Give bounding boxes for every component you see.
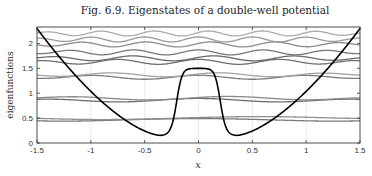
x-tick-label: -0.5 xyxy=(138,146,152,155)
y-tick-label: 1 xyxy=(29,89,34,98)
x-tick-label: 0 xyxy=(196,146,201,155)
grid xyxy=(91,27,306,143)
y-axis: 00.511.52 xyxy=(22,39,360,148)
double-well-chart: Fig. 6.9. Eigenstates of a double-well p… xyxy=(0,0,372,176)
y-axis-label: eigenfunctions xyxy=(5,51,15,119)
x-tick-label: -1 xyxy=(87,146,95,155)
x-tick-label: 0.5 xyxy=(247,146,259,155)
y-tick-label: 1.5 xyxy=(22,64,34,73)
x-tick-label: 1.5 xyxy=(354,146,366,155)
y-tick-label: 0.5 xyxy=(22,114,34,123)
y-tick-label: 2 xyxy=(29,39,34,48)
y-tick-label: 0 xyxy=(29,139,34,148)
x-axis-label: x xyxy=(195,159,201,170)
x-tick-label: 1 xyxy=(304,146,309,155)
chart-title: Fig. 6.9. Eigenstates of a double-well p… xyxy=(81,4,330,16)
